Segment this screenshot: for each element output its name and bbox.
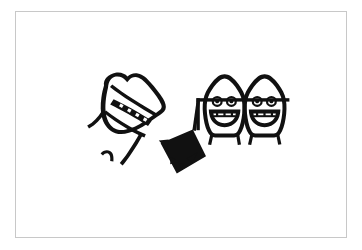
glasses-bar-left-drop — [196, 98, 199, 130]
right-head-a-outline — [203, 74, 247, 137]
right-head-a-neck-right — [236, 134, 241, 145]
kite-outline — [161, 130, 206, 174]
right-head-b-tooth-row — [253, 115, 275, 117]
doodle-drawing — [0, 0, 362, 250]
hook-stroke — [101, 150, 114, 161]
right-head-a-tooth-3 — [231, 110, 233, 116]
left-head-arm-stroke — [120, 133, 143, 166]
left-head-neck-stroke — [87, 111, 105, 128]
sketch-canvas: Three cartoon heads: a tilted head with … — [0, 0, 362, 250]
figure-right-head-a — [203, 74, 247, 145]
left-head-outline — [101, 73, 166, 134]
right-head-b-neck-left — [248, 134, 254, 145]
right-head-b-outline — [243, 74, 287, 137]
right-head-a-tooth-row — [213, 115, 235, 117]
right-head-b-neck-right — [276, 134, 281, 145]
right-head-a-tooth-1 — [216, 110, 218, 116]
right-head-b-tooth-3 — [271, 110, 273, 116]
figure-hook-mark — [101, 150, 114, 161]
right-head-a-neck-left — [208, 134, 214, 145]
right-head-b-tooth-1 — [256, 110, 258, 116]
glasses-bar-stroke — [196, 98, 289, 101]
figure-right-head-b — [243, 74, 287, 145]
figure-left-head — [87, 73, 166, 166]
